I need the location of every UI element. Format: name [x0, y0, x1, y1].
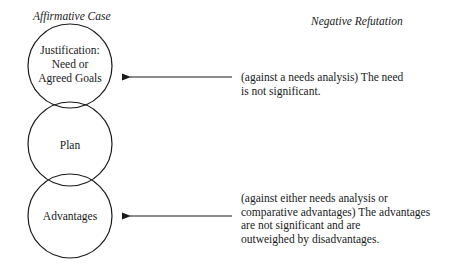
- refutation-line: is not significant.: [241, 85, 441, 99]
- label-line: Need or: [30, 57, 110, 71]
- label-line: Agreed Goals: [30, 71, 110, 85]
- refutation-line: are not significant and are: [241, 219, 441, 233]
- label-line: Justification:: [30, 43, 110, 57]
- label-line: Plan: [30, 138, 110, 152]
- refutation-line: outweighed by disadvantages.: [241, 233, 441, 247]
- refutation-line: (against a needs analysis) The need: [241, 71, 441, 85]
- refutation-line: comparative advantages) The advantages: [241, 206, 441, 220]
- plan-label: Plan: [30, 138, 110, 152]
- justification-label: Justification: Need or Agreed Goals: [30, 43, 110, 85]
- refutation-line: (against either needs analysis or: [241, 192, 441, 206]
- label-line: Advantages: [30, 209, 110, 223]
- refutation-need: (against a needs analysis) The need is n…: [241, 71, 441, 98]
- refutation-advantages: (against either needs analysis or compar…: [241, 192, 441, 246]
- advantages-label: Advantages: [30, 209, 110, 223]
